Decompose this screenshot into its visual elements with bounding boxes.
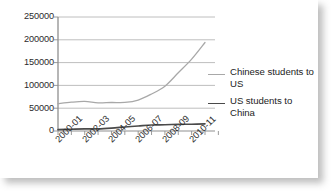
legend-entry[interactable]: Chinese students to US [208,66,316,89]
legend-line-swatch-icon [208,99,225,108]
chart-legend: Chinese students to USUS students to Chi… [208,66,316,124]
legend-label: Chinese students to US [230,66,316,89]
x-axis-tick-label: 2002-03 [81,114,111,144]
legend-label: US students to China [230,95,316,118]
x-axis-tick-label: 2004-05 [107,114,137,144]
legend-line-swatch-icon [208,70,225,79]
x-axis-tick-label: 2000-01 [54,114,84,144]
x-axis-tick-label: 2008-09 [161,114,191,144]
chart-figure: 250000200000150000100000500000 2000-0120… [0,0,335,195]
legend-entry[interactable]: US students to China [208,95,316,118]
chart-card: 250000200000150000100000500000 2000-0120… [0,0,318,178]
x-axis-tick-label: 2006-07 [134,114,164,144]
